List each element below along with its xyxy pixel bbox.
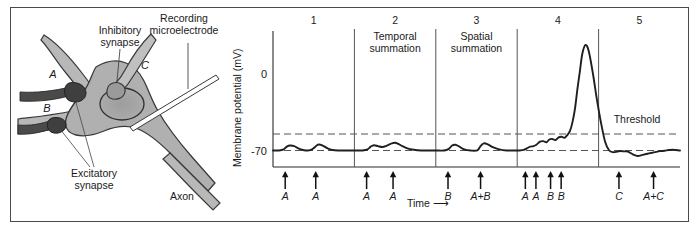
- stimulus-arrow-head: [363, 171, 369, 177]
- panel-number: 2: [375, 15, 415, 27]
- stimulus-arrow-head: [390, 171, 396, 177]
- stimulus-label: B: [432, 191, 464, 203]
- bouton-c-inhibitory: [107, 83, 125, 100]
- stimulus-label: A+B: [465, 191, 497, 203]
- panel-caption: Temporal summation: [351, 31, 439, 54]
- label-terminal-b: B: [40, 103, 54, 115]
- neuron-diagram-panel: Recording microelectrode Inhibitory syna…: [10, 7, 225, 222]
- stimulus-arrow-head: [650, 171, 656, 177]
- label-terminal-c: C: [138, 60, 152, 72]
- stimulus-label: A: [269, 191, 301, 203]
- stimulus-arrow-head: [616, 171, 622, 177]
- x-axis-label-text: Time: [407, 197, 430, 209]
- threshold-label: Threshold: [602, 114, 672, 126]
- stimulus-arrow-head: [558, 171, 564, 177]
- panel-number: 5: [619, 15, 659, 27]
- stimulus-label: A+C: [638, 191, 670, 203]
- label-axon: Axon: [162, 191, 202, 203]
- stimulus-arrow-head: [282, 171, 288, 177]
- stimulus-label: C: [603, 191, 635, 203]
- membrane-potential-trace: [273, 45, 680, 156]
- bouton-b-excitatory: [47, 117, 66, 133]
- label-excitatory-synapse: Excitatory synapse: [48, 168, 140, 191]
- stimulus-arrow-head: [313, 171, 319, 177]
- figure-synaptic-integration: Recording microelectrode Inhibitory syna…: [0, 0, 700, 236]
- stimulus-arrow-head: [445, 171, 451, 177]
- panel-number: 4: [538, 15, 578, 27]
- panel-caption: Spatial summation: [433, 31, 521, 54]
- stimulus-label: A: [300, 191, 332, 203]
- panel-number: 3: [457, 15, 497, 27]
- y-axis-label: Membrane potential (mV): [231, 49, 243, 167]
- stimulus-label: A: [377, 191, 409, 203]
- label-inhibitory-synapse: Inhibitory synapse: [76, 25, 164, 48]
- stimulus-arrow-head: [547, 171, 553, 177]
- stimulus-arrow-head: [522, 171, 528, 177]
- stimulus-arrow-head: [477, 171, 483, 177]
- stimulus-label: B: [545, 191, 577, 203]
- y-tick-label: 0: [261, 68, 267, 80]
- panel-number: 1: [294, 15, 334, 27]
- stimulus-arrow-head: [533, 171, 539, 177]
- membrane-potential-chart: 0-70 Membrane potential (mV) Time ⟶ AAAA…: [225, 7, 689, 222]
- y-tick-label: -70: [251, 145, 267, 157]
- label-terminal-a: A: [46, 69, 60, 81]
